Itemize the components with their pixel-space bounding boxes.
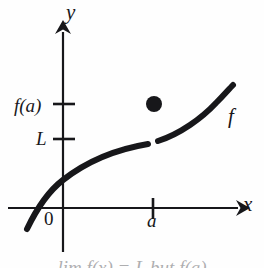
y-tick-label-f-of-a: f(a) — [14, 96, 41, 115]
y-tick-label-limit-L: L — [36, 129, 47, 148]
curve-f-right-branch — [158, 85, 233, 141]
figure-caption-clipped: lim f(x) = L but f(a) — [0, 258, 264, 268]
curve-label-f: f — [228, 106, 234, 127]
origin-label: 0 — [44, 209, 54, 228]
x-axis-label: x — [243, 194, 252, 215]
limit-figure: y x f f(a) L 0 a lim f(x) = L but f(a) — [0, 0, 264, 268]
x-tick-label-a: a — [147, 211, 157, 230]
filled-point-f-of-a — [146, 96, 162, 112]
y-axis-label: y — [66, 2, 75, 23]
